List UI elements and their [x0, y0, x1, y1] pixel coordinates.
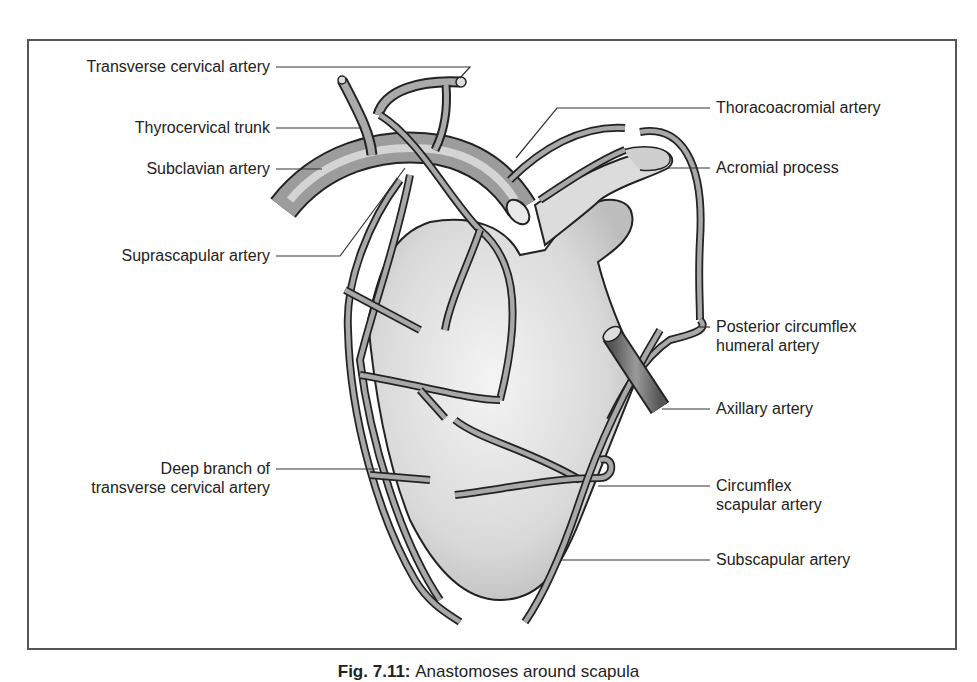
label-acromial-process: Acromial process	[716, 158, 839, 177]
label-deep-branch-line2: transverse cervical artery	[91, 478, 270, 497]
label-suprascapular-artery: Suprascapular artery	[121, 246, 270, 265]
label-subscapular-artery: Subscapular artery	[716, 550, 850, 569]
label-transverse-cervical-artery: Transverse cervical artery	[87, 57, 270, 76]
caption-text: Anastomoses around scapula	[415, 662, 639, 681]
label-thoracoacromial-artery: Thoracoacromial artery	[716, 98, 881, 117]
label-circumflex-scapular-line2: scapular artery	[716, 495, 822, 514]
label-posterior-circumflex-line1: Posterior circumflex	[716, 317, 856, 336]
label-deep-branch-line1: Deep branch of	[161, 459, 270, 478]
label-circumflex-scapular-line1: Circumflex	[716, 476, 792, 495]
label-axillary-artery: Axillary artery	[716, 399, 813, 418]
caption-number: Fig. 7.11:	[338, 662, 411, 681]
label-thyrocervical-trunk: Thyrocervical trunk	[135, 118, 270, 137]
label-subclavian-artery: Subclavian artery	[146, 159, 270, 178]
figure-caption: Fig. 7.11: Anastomoses around scapula	[0, 662, 977, 682]
label-posterior-circumflex-line2: humeral artery	[716, 336, 819, 355]
